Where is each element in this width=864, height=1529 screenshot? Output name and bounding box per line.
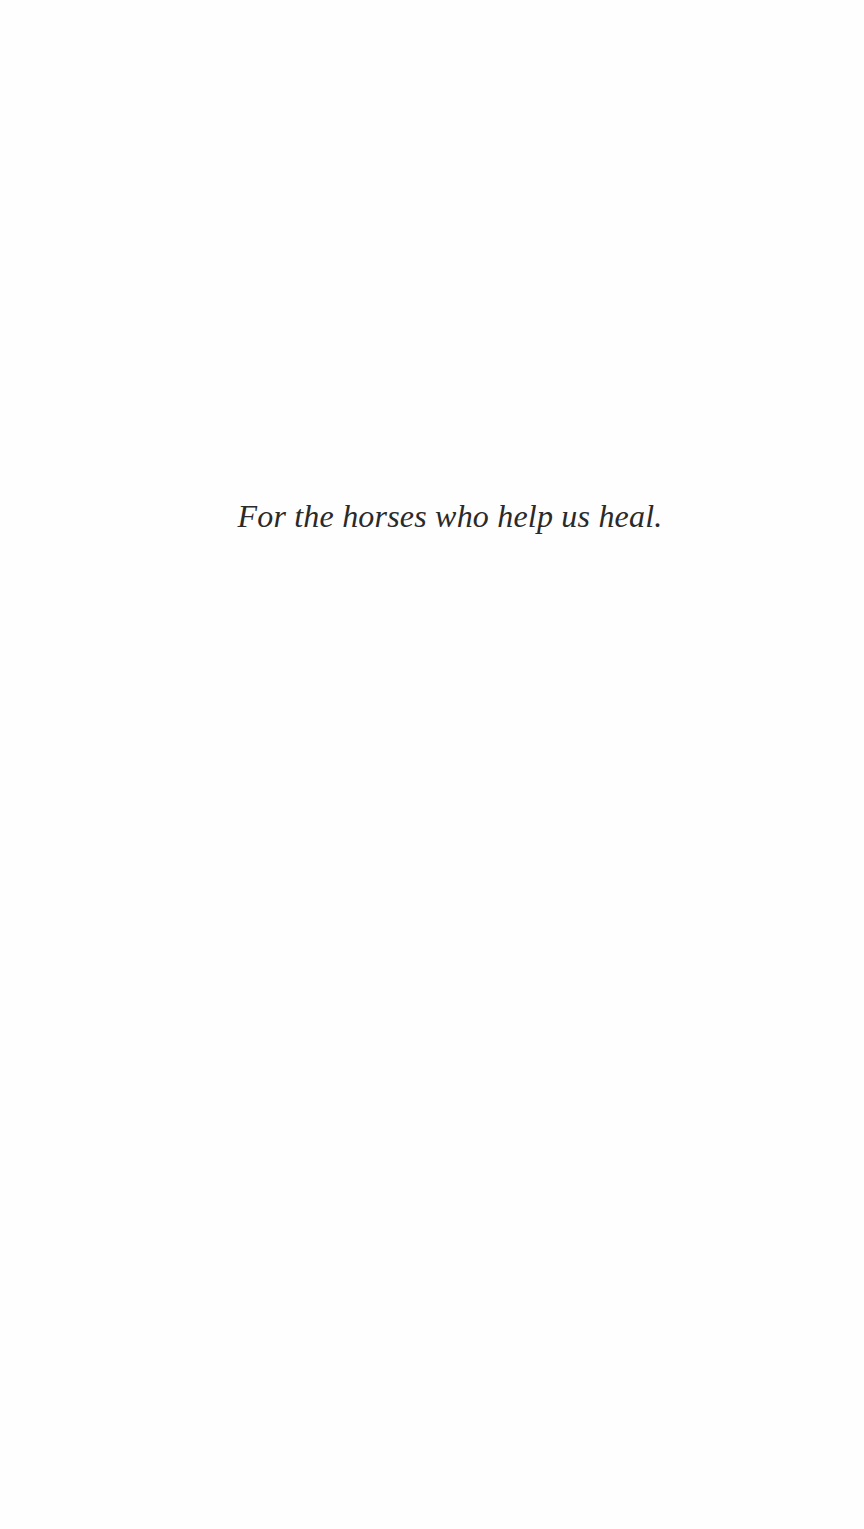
book-page: For the horses who help us heal.	[0, 0, 864, 1529]
dedication-text: For the horses who help us heal.	[0, 494, 864, 538]
